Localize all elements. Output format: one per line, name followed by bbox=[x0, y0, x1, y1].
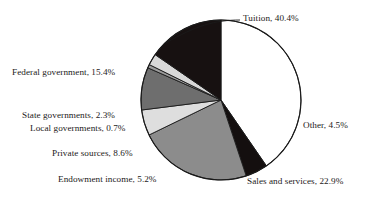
slice-label-sales-and-services: Sales and services, 22.9% bbox=[247, 176, 343, 187]
pie-chart: Tuition, 40.4% Federal government, 15.4%… bbox=[0, 0, 381, 203]
slice-label-private-sources: Private sources, 8.6% bbox=[52, 148, 133, 159]
pie-slice-group bbox=[141, 20, 301, 180]
slice-label-other: Other, 4.5% bbox=[303, 120, 348, 131]
slice-label-local-governments: Local governments, 0.7% bbox=[30, 123, 126, 134]
slice-label-tuition: Tuition, 40.4% bbox=[243, 13, 299, 24]
slice-label-endowment-income: Endowment income, 5.2% bbox=[58, 174, 157, 185]
slice-label-state-governments: State governments, 2.3% bbox=[22, 110, 115, 121]
slice-label-federal-government: Federal government, 15.4% bbox=[12, 67, 115, 78]
pie-chart-svg bbox=[0, 0, 381, 203]
